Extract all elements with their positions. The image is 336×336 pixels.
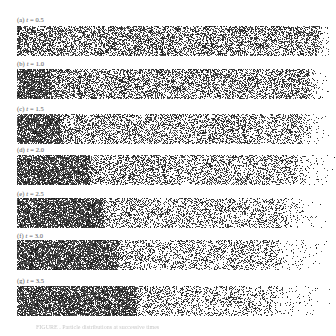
panel-letter: (g) xyxy=(17,277,25,284)
time-value: = 1.5 xyxy=(30,105,44,112)
panel-label-c: (c) t = 1.5 xyxy=(17,105,44,112)
panel-letter: (a) xyxy=(17,16,25,23)
time-variable: t xyxy=(27,60,29,67)
time-variable: t xyxy=(26,232,28,239)
time-value: = 2.0 xyxy=(30,146,44,153)
panel-letter: (f) xyxy=(17,232,24,239)
particle-strip-f xyxy=(17,240,335,270)
particle-strip-a xyxy=(17,26,335,56)
panel-letter: (e) xyxy=(17,190,25,197)
time-value: = 0.5 xyxy=(30,16,44,23)
time-variable: t xyxy=(27,277,29,284)
time-value: = 1.0 xyxy=(30,60,44,67)
particle-strip-b xyxy=(17,69,335,99)
panel-letter: (b) xyxy=(17,60,25,67)
particle-strip-e xyxy=(17,198,335,228)
panel-label-f: (f) t = 3.0 xyxy=(17,232,43,239)
particle-strip-c xyxy=(17,114,335,144)
time-variable: t xyxy=(26,16,28,23)
panel-letter: (d) xyxy=(17,146,25,153)
time-value: = 3.0 xyxy=(29,232,43,239)
time-value: = 2.5 xyxy=(30,190,44,197)
time-variable: t xyxy=(27,146,29,153)
time-variable: t xyxy=(26,190,28,197)
time-variable: t xyxy=(26,105,28,112)
panel-label-e: (e) t = 2.5 xyxy=(17,190,44,197)
time-value: = 3.5 xyxy=(30,277,44,284)
figure: (a) t = 0.5 (b) t = 1.0 (c) t = 1.5 (d) … xyxy=(0,0,336,336)
panel-label-g: (g) t = 3.5 xyxy=(17,277,44,284)
figure-caption: FIGURE . Particle distributions at succe… xyxy=(36,324,316,332)
panel-label-b: (b) t = 1.0 xyxy=(17,60,44,67)
particle-strip-d xyxy=(17,155,335,185)
panel-letter: (c) xyxy=(17,105,25,112)
panel-label-a: (a) t = 0.5 xyxy=(17,16,44,23)
particle-strip-g xyxy=(17,286,335,316)
panel-label-d: (d) t = 2.0 xyxy=(17,146,44,153)
